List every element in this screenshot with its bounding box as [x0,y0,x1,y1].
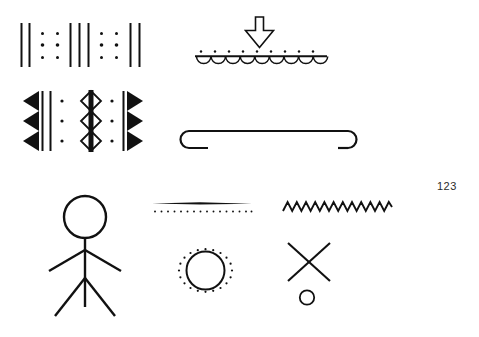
dotted-row [154,211,252,213]
symbol-cross-with-circle [288,243,330,305]
stick-figure-head [64,196,106,238]
stick-figure-arm-right [85,250,121,271]
symbol-zigzag-line [283,202,392,211]
symbol-striped-dotted-band [22,23,140,67]
stick-figure-arm-left [49,250,85,271]
small-circle [300,290,314,304]
symbol-double-hook-bar [181,131,357,148]
cross-strokes [288,243,330,281]
down-arrow-icon [246,17,274,48]
page-number: 123 [437,180,457,192]
scallop-row [197,57,328,64]
left-chevron-column [23,91,39,151]
symbol-line-over-dotted-line [152,202,252,212]
symbol-circle-in-dot-ring [178,248,233,293]
symbol-stick-figure [49,196,121,316]
stick-figure-leg-left [55,278,85,316]
right-dot-column [110,99,113,142]
stick-figure-leg-right [85,278,115,316]
symbol-chevron-diamond-band [23,90,143,152]
solid-stroke [152,202,252,204]
figure-page: 123 [0,0,479,337]
dot-row-above-line [200,50,314,52]
inner-circle [187,252,225,290]
left-vertical-rules [43,91,51,151]
symbol-arrow-over-scalloped-line [195,17,328,64]
left-dot-column [60,99,63,142]
right-chevron-column [127,91,143,151]
figure-canvas [0,0,479,337]
